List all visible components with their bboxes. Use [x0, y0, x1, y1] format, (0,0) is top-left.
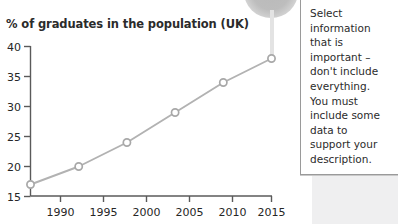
data-point-marker	[27, 181, 34, 188]
y-tick-label: 20	[7, 161, 21, 174]
x-tick-label: 2005	[176, 206, 204, 219]
x-axis-tick-labels: 1990 1995 2000 2005 2010 2015	[47, 206, 286, 219]
series-line	[31, 59, 272, 185]
x-tick-label: 2015	[258, 206, 286, 219]
line-chart: 40 35 30 25 20 15 1990 1995 2000 2005 20…	[0, 32, 300, 224]
callout-note-text: Select information that is important – d…	[310, 6, 391, 167]
y-tick-label: 25	[7, 131, 21, 144]
data-point-marker	[75, 163, 82, 170]
data-point-marker	[172, 109, 179, 116]
data-point-marker	[123, 139, 130, 146]
x-tick-label: 2000	[133, 206, 161, 219]
x-tick-label: 2010	[219, 206, 247, 219]
callout-note-box: Select information that is important – d…	[300, 0, 398, 175]
y-tick-label: 40	[7, 41, 21, 54]
data-series-graduates	[27, 55, 275, 188]
x-tick-label: 1995	[90, 206, 118, 219]
y-tick-label: 30	[7, 101, 21, 114]
y-axis-ticks	[24, 47, 31, 197]
x-axis-ticks	[61, 196, 272, 202]
y-axis-tick-labels: 40 35 30 25 20 15	[7, 41, 21, 204]
pin-head-icon	[244, 0, 298, 18]
data-point-marker	[220, 79, 227, 86]
chart-title: % of graduates in the population (UK)	[6, 17, 249, 31]
y-tick-label: 15	[7, 191, 21, 204]
y-tick-label: 35	[7, 71, 21, 84]
data-point-marker	[268, 55, 275, 62]
x-tick-label: 1990	[47, 206, 75, 219]
chart-axes	[31, 46, 273, 196]
